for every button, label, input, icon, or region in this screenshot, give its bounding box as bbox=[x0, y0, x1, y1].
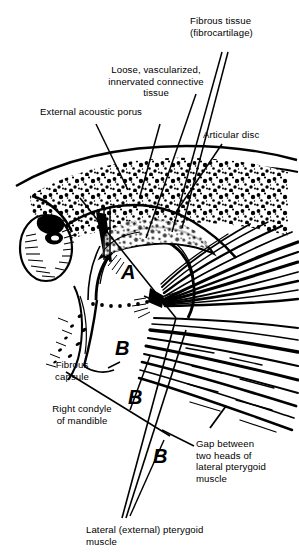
label-gap-between-two-heads: Gap between two heads of lateral pterygo… bbox=[196, 438, 296, 484]
label-external-acoustic-porus: External acoustic porus bbox=[40, 106, 172, 118]
region-letter-b-upper: B bbox=[115, 337, 129, 360]
anatomical-figure: Fibrous tissue (fibrocartilage) Loose, v… bbox=[0, 0, 299, 555]
region-letter-b-lower: B bbox=[153, 445, 167, 468]
region-letter-b-middle: B bbox=[128, 386, 142, 409]
region-letter-a: A bbox=[121, 261, 135, 284]
label-articular-disc: Articular disc bbox=[203, 129, 293, 141]
label-loose-connective-tissue: Loose, vascularized, innervated connecti… bbox=[96, 64, 216, 99]
label-lateral-pterygoid-muscle: Lateral (external) pterygoid muscle bbox=[86, 524, 266, 547]
label-right-condyle-of-mandible: Right condyle of mandible bbox=[36, 403, 128, 426]
label-fibrous-tissue: Fibrous tissue (fibrocartilage) bbox=[190, 15, 296, 38]
joint-space-dotted-line bbox=[91, 298, 157, 308]
label-fibrous-capsule: Fibrous capsule bbox=[38, 359, 106, 382]
